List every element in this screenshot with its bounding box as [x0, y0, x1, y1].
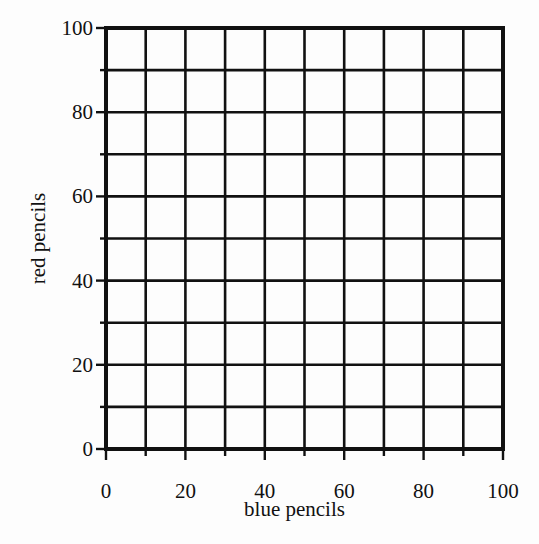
x-tick-label: 20: [175, 479, 196, 503]
x-tick-label: 80: [413, 479, 434, 503]
y-tick-label: 40: [72, 269, 93, 293]
graph-chart: 020406080100 020406080100 blue pencils r…: [0, 0, 539, 544]
x-tick-label: 0: [101, 479, 112, 503]
grid-lines: [106, 28, 503, 449]
axis-ticks: [96, 28, 503, 460]
y-tick-label: 0: [83, 437, 94, 461]
y-tick-label: 20: [72, 353, 93, 377]
y-tick-label: 100: [62, 16, 94, 40]
y-tick-label: 80: [72, 100, 93, 124]
y-tick-label: 60: [72, 184, 93, 208]
x-axis-label: blue pencils: [244, 497, 345, 521]
x-tick-label: 100: [487, 479, 519, 503]
y-axis-label: red pencils: [26, 193, 50, 285]
y-tick-labels: 020406080100: [62, 16, 94, 461]
